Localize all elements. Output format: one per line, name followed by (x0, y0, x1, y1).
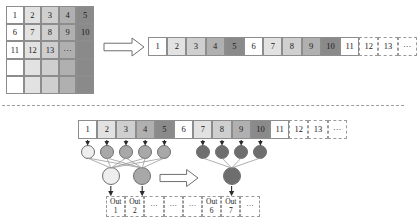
sequence-cell: 2 (97, 120, 116, 139)
output-cell-line1: ··· (189, 202, 197, 211)
sequence-cell-label: 6 (251, 42, 255, 51)
matrix-cell: 5 (76, 6, 94, 24)
matrix-cell-label: 7 (30, 28, 34, 37)
sequence-cell: 13 (308, 120, 327, 139)
sequence-cell: 10 (321, 37, 340, 56)
matrix-cell-label: 1 (13, 11, 17, 20)
sequence-cell-label: 13 (314, 125, 323, 134)
output-cell-line2: 7 (229, 207, 233, 216)
sequence-cell: 4 (136, 120, 155, 139)
sequence-cell-label: 3 (124, 125, 128, 134)
section-divider (2, 105, 404, 106)
matrix-cell (59, 76, 77, 94)
matrix-cell: 2 (24, 6, 42, 24)
node-level1 (100, 145, 114, 159)
sequence-cell: 3 (186, 37, 205, 56)
sequence-cell: 11 (340, 37, 359, 56)
sequence-cell: 7 (263, 37, 282, 56)
output-cell: Out1 (106, 196, 125, 217)
matrix-cell (24, 76, 42, 94)
node-level1 (215, 145, 229, 159)
matrix-cell: 13 (41, 41, 59, 59)
matrix-cell: 3 (41, 6, 59, 24)
node-level2 (223, 167, 241, 185)
matrix-cell: ··· (59, 41, 77, 59)
sequence-cell: 12 (289, 120, 308, 139)
sequence-cell-label: 7 (201, 125, 205, 134)
output-cell: Out7 (221, 196, 240, 217)
sequence-cell-label: 13 (384, 42, 393, 51)
output-cell: ··· (164, 196, 183, 217)
matrix-cell-label: 6 (13, 28, 17, 37)
sequence-cell: 1 (78, 120, 97, 139)
node-level1 (253, 145, 267, 159)
matrix-cell-label: 5 (83, 11, 87, 20)
output-cell-line2: 1 (114, 207, 118, 216)
matrix-cell: 4 (59, 6, 77, 24)
output-cell: ··· (183, 196, 202, 217)
sequence-cell: 8 (282, 37, 301, 56)
transform-arrow-bottom (160, 170, 198, 187)
sequence-cell: 10 (251, 120, 270, 139)
matrix-cell-label: ··· (63, 46, 72, 55)
sequence-cell: 6 (244, 37, 263, 56)
matrix-cell-label: 12 (28, 46, 37, 55)
output-cell: ··· (240, 196, 259, 217)
sequence-cell-label: 5 (232, 42, 236, 51)
matrix-cell (76, 76, 94, 94)
matrix-cell-label: 4 (65, 11, 69, 20)
sequence-cell-label: 10 (326, 42, 335, 51)
output-cell-line2: 2 (133, 207, 137, 216)
matrix-cell (6, 59, 24, 77)
node-level1 (157, 145, 171, 159)
sequence-cell-label: 11 (346, 42, 354, 51)
sequence-cell-label: 10 (256, 125, 265, 134)
node-connector (203, 158, 232, 168)
sequence-cell-label: 2 (175, 42, 179, 51)
matrix-cell: 6 (6, 24, 24, 42)
sequence-cell: 9 (302, 37, 321, 56)
output-cell-line1: ··· (150, 202, 158, 211)
matrix-cell-label: 9 (65, 28, 69, 37)
node-level1 (196, 145, 210, 159)
matrix-cell: 9 (59, 24, 77, 42)
sequence-cell-label: 1 (155, 42, 159, 51)
matrix-cell-label: 11 (11, 46, 19, 55)
sequence-cell: 12 (359, 37, 378, 56)
sequence-cell: 3 (116, 120, 135, 139)
output-cell: Out6 (202, 196, 221, 217)
sequence-cell-label: 6 (181, 125, 185, 134)
output-cell-line1: ··· (246, 202, 254, 211)
node-level1 (138, 145, 152, 159)
input-matrix: 12345678910111213··· (6, 6, 94, 94)
output-cell-line2: 6 (210, 207, 214, 216)
matrix-cell (6, 76, 24, 94)
sequence-cell: 7 (193, 120, 212, 139)
sequence-cell: 2 (167, 37, 186, 56)
matrix-cell: 7 (24, 24, 42, 42)
sequence-cell: 9 (232, 120, 251, 139)
matrix-cell-label: 2 (30, 11, 34, 20)
sequence-cell-label: 5 (162, 125, 166, 134)
matrix-cell: 12 (24, 41, 42, 59)
sequence-cell-label: 9 (309, 42, 313, 51)
matrix-cell-label: 8 (48, 28, 52, 37)
sequence-cell-label: 11 (276, 125, 284, 134)
sequence-cell-label: ··· (403, 42, 412, 51)
matrix-cell (24, 59, 42, 77)
sequence-cell: ··· (398, 37, 417, 56)
sequence-cell-label: 8 (220, 125, 224, 134)
matrix-cell: 10 (76, 24, 94, 42)
sequence-cell-label: 2 (105, 125, 109, 134)
node-level2 (133, 167, 151, 185)
matrix-cell-label: 10 (81, 28, 90, 37)
sequence-cell: 8 (212, 120, 231, 139)
sequence-cell-label: 9 (239, 125, 243, 134)
matrix-cell: 8 (41, 24, 59, 42)
transform-arrow-top (104, 38, 144, 56)
matrix-cell-label: 3 (48, 11, 52, 20)
sequence-cell: 4 (206, 37, 225, 56)
sequence-cell-label: 1 (85, 125, 89, 134)
sequence-cell-label: 8 (290, 42, 294, 51)
